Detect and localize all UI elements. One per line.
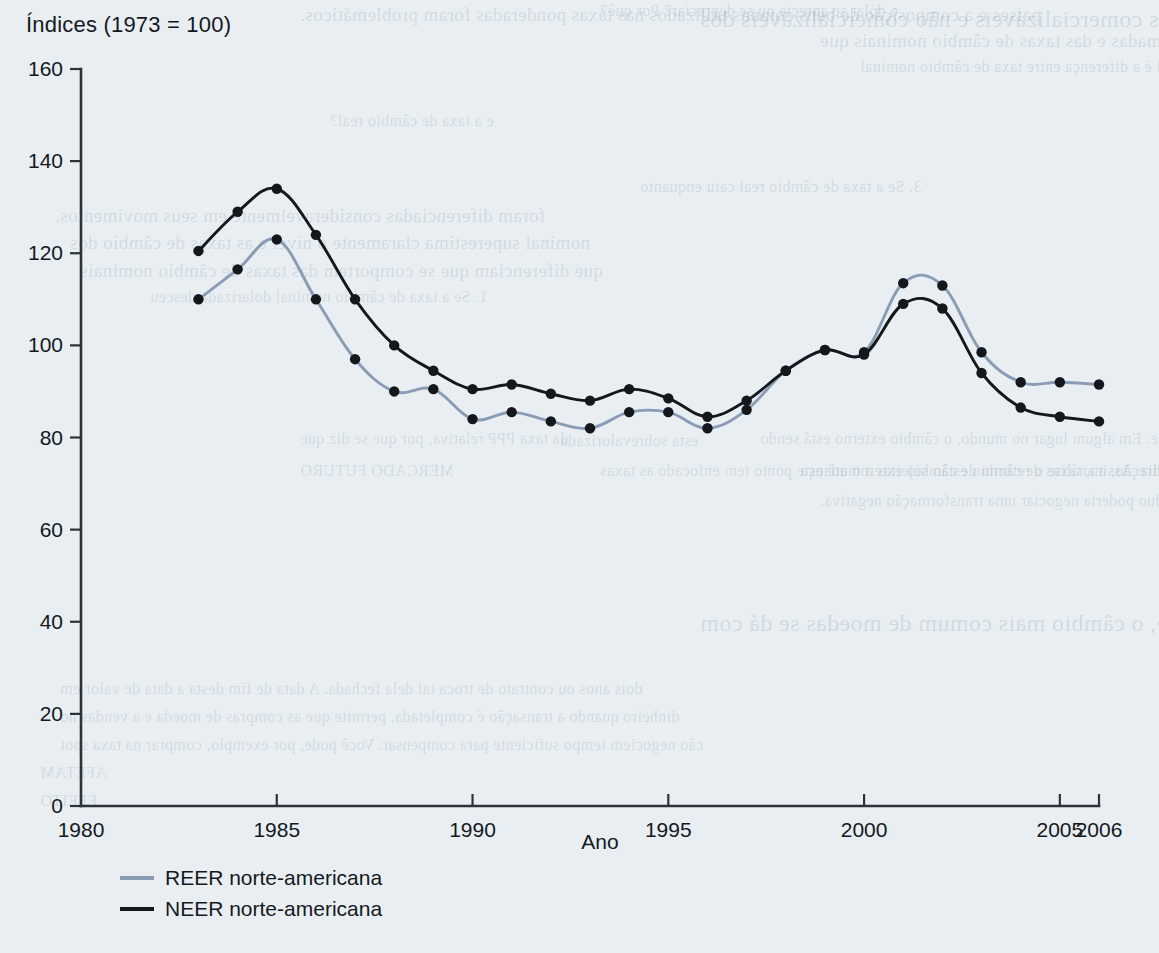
y-tick-label: 120 [28,241,63,264]
y-tick-label: 40 [40,610,63,633]
y-tick-label: 60 [40,518,63,541]
x-tick-label: 1990 [449,818,496,841]
x-tick-label: 2000 [841,818,888,841]
y-axis: 020406080100120140160 [28,57,81,817]
chart-legend: REER norte-americana NEER norte-american… [120,862,382,924]
x-tick-label: 1995 [645,818,692,841]
y-tick-label: 20 [40,702,63,725]
series-reer [193,234,1104,433]
x-tick-label: 1980 [58,818,105,841]
legend-label-reer: REER norte-americana [165,866,382,890]
y-tick-label: 100 [28,333,63,356]
legend-label-neer: NEER norte-americana [165,897,382,921]
legend-swatch-neer [120,907,154,911]
y-tick-label: 160 [28,57,63,80]
x-axis-label: Ano [581,830,618,853]
y-tick-label: 80 [40,426,63,449]
legend-item-reer: REER norte-americana [120,862,382,893]
chart-figure: Índices (1973 = 100) 0204060801001201401… [0,0,1159,953]
y-tick-label: 0 [51,794,63,817]
x-tick-label: 2006 [1076,818,1123,841]
series-neer [193,184,1104,427]
legend-item-neer: NEER norte-americana [120,893,382,924]
y-tick-label: 140 [28,149,63,172]
x-tick-label: 1985 [253,818,300,841]
data-series-layer [193,184,1104,434]
legend-swatch-reer [120,876,154,880]
chart-plot-area: 020406080100120140160 198019851990199520… [0,0,1159,953]
